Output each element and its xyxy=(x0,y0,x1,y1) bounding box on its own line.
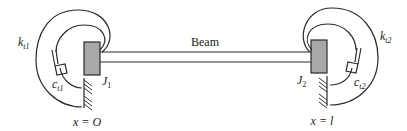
ground-right xyxy=(319,76,327,108)
label-c-t1: ct1 xyxy=(52,77,64,93)
left-end: kt1 ct1 J1 x = O xyxy=(18,10,111,129)
right-end: kt2 ct2 J2 x = l xyxy=(297,8,392,128)
label-j2: J2 xyxy=(297,73,306,89)
label-k-t1: kt1 xyxy=(18,35,30,51)
beam-label: Beam xyxy=(191,35,220,49)
ground-left xyxy=(84,78,92,110)
label-k-t2: kt2 xyxy=(380,29,392,45)
inertia-j1 xyxy=(84,42,100,75)
damper-cup-left xyxy=(52,50,67,75)
beam-diagram: Beam kt1 ct1 J1 x = O xyxy=(0,0,407,131)
label-j1: J1 xyxy=(102,74,111,90)
label-c-t2: ct2 xyxy=(354,75,366,91)
inertia-j2 xyxy=(311,40,327,73)
label-x-origin: x = O xyxy=(72,115,101,129)
beam xyxy=(100,52,311,62)
damper-cup-right xyxy=(346,48,361,73)
label-x-length: x = l xyxy=(310,114,334,128)
